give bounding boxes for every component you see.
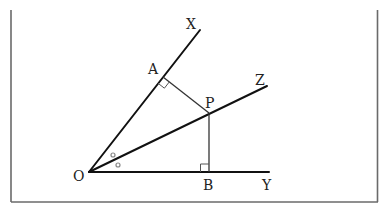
segment-AP [163,77,209,113]
angle-mark-XOZ [111,153,115,157]
label-O: O [73,168,84,184]
ray-OX [89,30,200,172]
diagram-frame [11,10,378,202]
label-X: X [186,16,196,32]
angle-mark-ZOY [116,163,120,167]
right-angle-mark-B [201,164,210,172]
label-A: A [147,61,159,77]
label-P: P [205,95,214,111]
label-Z: Z [255,72,265,88]
label-Y: Y [261,177,272,193]
geometry-diagram: O A P B X Y Z [0,0,386,212]
label-B: B [203,177,213,193]
ray-OZ [89,86,267,172]
